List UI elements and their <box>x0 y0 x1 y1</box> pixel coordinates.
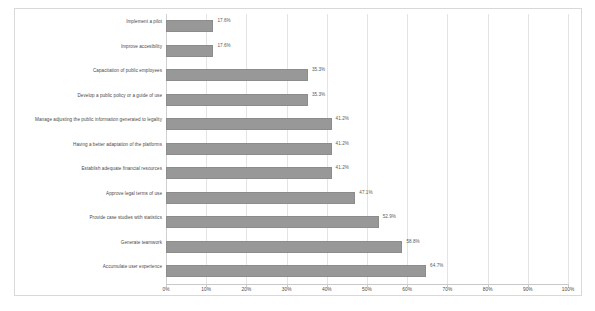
bar <box>166 143 332 155</box>
x-tick-label: 40% <box>322 287 332 292</box>
bar-row: Accumulate user experience64.7% <box>166 259 568 284</box>
bar-value-label: 41.2% <box>336 141 349 146</box>
bar-value-label: 41.2% <box>336 116 349 121</box>
bar-value-label: 58.8% <box>406 239 419 244</box>
x-tick-label: 30% <box>282 287 292 292</box>
x-tick-label: 100% <box>562 287 574 292</box>
gridline <box>568 14 569 284</box>
bar-value-label: 17.6% <box>217 18 230 23</box>
bar-value-label: 52.9% <box>383 214 396 219</box>
bar <box>166 69 308 81</box>
x-tick-label: 0% <box>162 287 169 292</box>
bar-value-label: 17.6% <box>217 43 230 48</box>
x-tick-label: 80% <box>483 287 493 292</box>
plot-area: Implement a pilot17.6%Improve accesibili… <box>166 14 568 284</box>
category-label: Having a better adaptation of the platfo… <box>73 142 162 147</box>
bar <box>166 216 379 228</box>
bar-row: Improve accesibility17.6% <box>166 39 568 64</box>
x-tick-label: 10% <box>201 287 211 292</box>
bar-value-label: 35.3% <box>312 67 325 72</box>
bar <box>166 241 402 253</box>
bar-value-label: 41.2% <box>336 165 349 170</box>
bar <box>166 192 355 204</box>
bar-row: Establish adequate financial resources41… <box>166 161 568 186</box>
x-axis-tick-labels: 0%10%20%30%40%50%60%70%80%90%100% <box>166 287 568 299</box>
category-label: Accumulate user experience <box>103 264 162 269</box>
bar-series: Implement a pilot17.6%Improve accesibili… <box>166 14 568 284</box>
category-label: Capacitation of public employees <box>93 68 162 73</box>
bar-row: Having a better adaptation of the platfo… <box>166 137 568 162</box>
category-label: Approve legal terms of use <box>106 191 162 196</box>
bar-row: Implement a pilot17.6% <box>166 14 568 39</box>
bar-row: Approve legal terms of use47.1% <box>166 186 568 211</box>
bar-row: Provide case studies with statistics52.9… <box>166 210 568 235</box>
category-label: Generate teamwork <box>121 240 162 245</box>
x-tick-label: 20% <box>242 287 252 292</box>
bar-value-label: 35.3% <box>312 92 325 97</box>
bar <box>166 94 308 106</box>
bar <box>166 45 213 57</box>
bar <box>166 265 426 277</box>
category-label: Provide case studies with statistics <box>89 215 162 220</box>
category-label: Develop a public policy or a guide of us… <box>77 93 162 98</box>
bar <box>166 20 213 32</box>
x-tick-label: 50% <box>362 287 372 292</box>
x-tick-label: 60% <box>402 287 412 292</box>
bar-row: Develop a public policy or a guide of us… <box>166 88 568 113</box>
category-label: Establish adequate financial resources <box>81 166 162 171</box>
bar-row: Generate teamwork58.8% <box>166 235 568 260</box>
bar-value-label: 64.7% <box>430 263 443 268</box>
category-label: Improve accesibility <box>121 44 162 49</box>
bar <box>166 167 332 179</box>
category-label: Manage adjusting the public information … <box>35 117 162 122</box>
bar-value-label: 47.1% <box>359 190 372 195</box>
bar-row: Capacitation of public employees35.3% <box>166 63 568 88</box>
x-tick-label: 70% <box>443 287 453 292</box>
x-tick-label: 90% <box>523 287 533 292</box>
chart-container: Implement a pilot17.6%Improve accesibili… <box>14 8 582 296</box>
bar-row: Manage adjusting the public information … <box>166 112 568 137</box>
bar <box>166 118 332 130</box>
category-label: Implement a pilot <box>126 19 162 24</box>
